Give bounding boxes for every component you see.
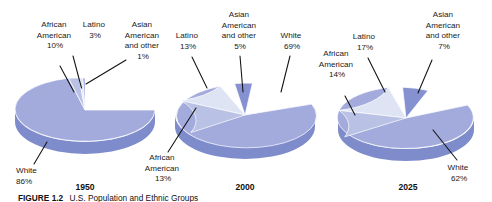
label-asian-american-2025: Asian American and other 7% <box>426 10 462 51</box>
slice-asian-american-2025 <box>403 87 428 118</box>
pie-2025-top <box>337 87 473 148</box>
label-latino-2000: Latino 13% <box>176 31 200 51</box>
pie-chart-2000: Latino 13% Asian American and other 5% W… <box>145 10 317 192</box>
chart-year-2000: 2000 <box>235 182 254 192</box>
pie-charts-figure: African American 10% Latino 3% Asian Ame… <box>0 0 492 202</box>
leader-asian-american-2025 <box>418 60 432 93</box>
label-latino-1950: Latino 3% <box>83 20 107 40</box>
pie-2000-top <box>176 83 316 148</box>
leader-latino-2025 <box>368 58 385 92</box>
label-white-2025: White 62% <box>448 163 471 183</box>
label-white-2000: White 69% <box>281 31 304 51</box>
label-african-american-2000: African American 13% <box>145 153 181 183</box>
pie-chart-1950: African American 10% Latino 3% Asian Ame… <box>15 20 161 192</box>
pie-1950-top <box>15 78 155 141</box>
chart-year-1950: 1950 <box>75 182 94 192</box>
label-white-1950: White 86% <box>16 166 39 186</box>
label-african-american-2025: African American 14% <box>319 49 355 79</box>
label-latino-2025: Latino 17% <box>353 32 377 52</box>
chart-year-2025: 2025 <box>398 182 417 192</box>
label-asian-american-2000: Asian American and other 5% <box>222 10 258 51</box>
figure-caption: FIGURE 1.2 U.S. Population and Ethnic Gr… <box>18 193 198 202</box>
pie-chart-2025: Latino 17% Asian American and other 7% A… <box>319 10 474 192</box>
label-african-american-1950: African American 10% <box>37 20 73 50</box>
leader-white-2000 <box>281 56 290 92</box>
leader-asian-american-1950 <box>86 60 126 84</box>
label-asian-american-1950: Asian American and other 1% <box>125 20 161 61</box>
figure-container: African American 10% Latino 3% Asian Ame… <box>0 0 492 202</box>
leader-latino-2000 <box>192 57 207 88</box>
